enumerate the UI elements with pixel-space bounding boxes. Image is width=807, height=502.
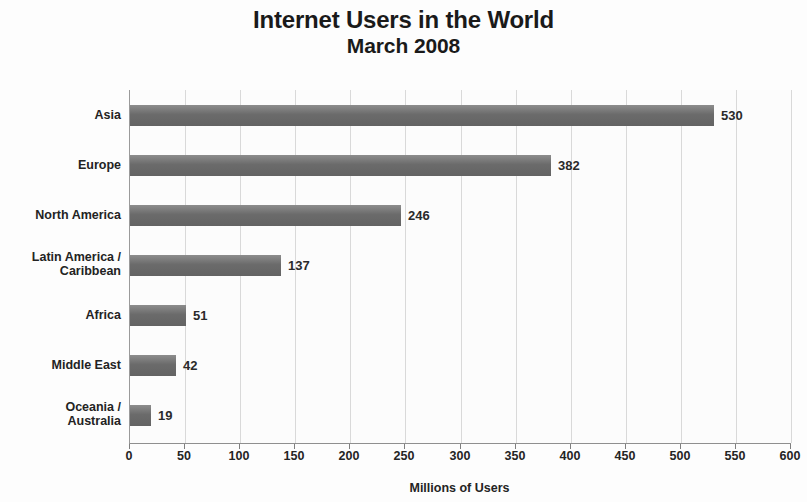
category-label: Asia — [1, 108, 121, 122]
gridline — [791, 90, 792, 443]
chart-title-main: Internet Users in the World — [0, 6, 807, 34]
category-label: North America — [1, 208, 121, 222]
bar-value-label: 42 — [183, 355, 197, 376]
bar-value-label: 382 — [558, 155, 580, 176]
x-axis-tick-labels: 050100150200250300350400450500550600 — [129, 449, 790, 469]
category-axis: AsiaEuropeNorth AmericaLatin America / C… — [0, 90, 121, 443]
x-axis-tick-label: 300 — [450, 449, 471, 463]
bar — [130, 405, 151, 426]
bar — [130, 105, 714, 126]
bar-row: 42 — [130, 340, 791, 390]
bar-value-label: 137 — [288, 255, 310, 276]
x-axis-tick-label: 0 — [126, 449, 133, 463]
category-label: Latin America / Caribbean — [1, 250, 121, 279]
bar-row: 51 — [130, 290, 791, 340]
chart-title-subtitle: March 2008 — [0, 34, 807, 59]
bar — [130, 355, 176, 376]
x-axis-tick-label: 100 — [229, 449, 250, 463]
plot-area: 530382246137514219 — [129, 90, 791, 444]
x-axis-title: Millions of Users — [129, 481, 790, 495]
bar-row: 137 — [130, 240, 791, 290]
bar-value-label: 530 — [721, 105, 743, 126]
category-label: Africa — [1, 308, 121, 322]
x-axis-tick-label: 150 — [284, 449, 305, 463]
bar-chart-figure: Internet Users in the World March 2008 A… — [0, 0, 807, 502]
bar-row: 246 — [130, 190, 791, 240]
bar-value-label: 19 — [158, 405, 172, 426]
bar-value-label: 246 — [408, 205, 430, 226]
bar-value-label: 51 — [193, 305, 207, 326]
bar — [130, 155, 551, 176]
x-axis-tick-label: 450 — [615, 449, 636, 463]
x-axis-tick-label: 200 — [339, 449, 360, 463]
x-axis-tick-label: 550 — [725, 449, 746, 463]
x-axis-tick-label: 50 — [177, 449, 191, 463]
bar — [130, 205, 401, 226]
x-axis-tick-label: 500 — [670, 449, 691, 463]
bar — [130, 255, 281, 276]
bar-row: 19 — [130, 390, 791, 440]
x-axis-tick-label: 400 — [560, 449, 581, 463]
category-label: Middle East — [1, 358, 121, 372]
chart-title: Internet Users in the World March 2008 — [0, 6, 807, 59]
x-axis-tick-label: 600 — [780, 449, 801, 463]
bar — [130, 305, 186, 326]
bar-row: 382 — [130, 140, 791, 190]
category-label: Oceania / Australia — [1, 400, 121, 429]
x-axis-tick-label: 250 — [394, 449, 415, 463]
bar-row: 530 — [130, 90, 791, 140]
x-axis-tick-label: 350 — [505, 449, 526, 463]
category-label: Europe — [1, 158, 121, 172]
